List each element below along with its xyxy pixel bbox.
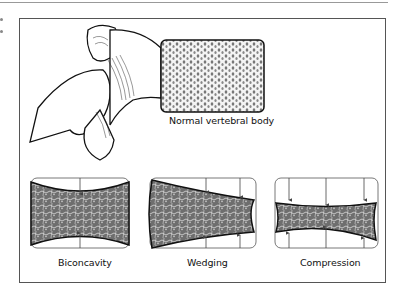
compression-label: Compression [300,257,361,268]
posterior-elements [30,25,161,160]
wedging-label: Wedging [187,257,228,268]
biconcavity-vertebra [31,178,129,248]
normal-vertebral-body [161,40,264,112]
vertebra-illustration [0,0,403,296]
wedging-vertebra [149,178,256,248]
biconcavity-label: Biconcavity [58,257,112,268]
normal-vertebral-body-label: Normal vertebral body [169,115,274,126]
compression-vertebra [275,178,378,248]
